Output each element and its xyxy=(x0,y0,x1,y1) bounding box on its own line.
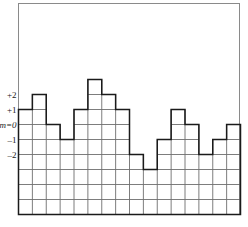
tick-plus-2: +2 xyxy=(7,90,17,100)
plot-svg: +2+1m=0–1–2 xyxy=(0,0,248,227)
tick-m-zero: m=0 xyxy=(0,120,17,130)
tick-minus-1: –1 xyxy=(7,135,17,145)
tick-plus-1: +1 xyxy=(7,105,17,115)
tick-minus-2: –2 xyxy=(7,150,17,160)
step-histogram-figure: +2+1m=0–1–2 xyxy=(0,0,248,227)
y-axis-labels: +2+1m=0–1–2 xyxy=(0,90,17,160)
